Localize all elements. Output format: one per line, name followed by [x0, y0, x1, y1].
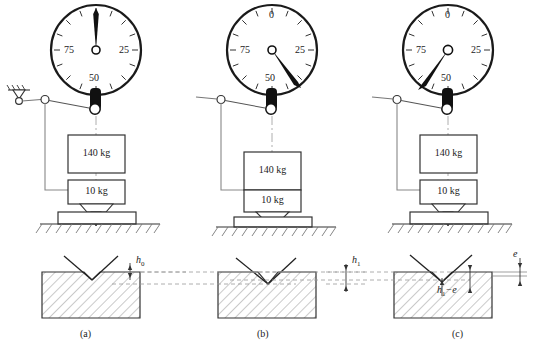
weight-140-label-a: 140 kg — [72, 147, 121, 158]
weight-140-label-c: 140 kg — [424, 147, 473, 158]
anvil-b — [234, 217, 312, 227]
panel-a — [7, 5, 186, 318]
depth-label-a: h0 — [136, 254, 145, 268]
gauge-c-label-bottom: 50 — [441, 72, 451, 83]
weight-10-label-c: 10 kg — [424, 185, 473, 196]
recovery-label-c: e — [513, 248, 517, 259]
gauge-a-label-bottom: 50 — [89, 72, 99, 83]
caption-b: (b) — [257, 328, 269, 339]
weight-140-label-b: 140 kg — [248, 164, 297, 175]
dial-gauge-c — [403, 5, 493, 110]
specimen-b — [112, 258, 366, 318]
gauge-a-label-right: 25 — [119, 44, 129, 55]
weight-10-label-a: 10 kg — [72, 185, 121, 196]
dial-gauge-a — [51, 5, 141, 110]
gauge-b-label-right: 25 — [295, 44, 305, 55]
dial-gauge-b — [227, 5, 317, 110]
residual-depth-label-c: h1−e — [437, 284, 457, 298]
gauge-b-label-top: 0 — [269, 9, 274, 20]
specimen-a — [42, 256, 186, 318]
caption-a: (a) — [80, 328, 91, 339]
caption-c: (c) — [452, 328, 463, 339]
depth-label-b: h1 — [352, 254, 361, 268]
gauge-b-label-bottom: 50 — [265, 72, 275, 83]
gauge-a-label-left: 75 — [64, 44, 74, 55]
rockwell-test-figure: 0 25 50 75 0 25 50 75 0 25 50 75 140 kg … — [0, 0, 541, 346]
anvil-a — [58, 212, 136, 224]
anvil-c — [410, 212, 488, 224]
weight-10-label-b: 10 kg — [248, 194, 297, 205]
gauge-c-label-right: 25 — [471, 44, 481, 55]
gauge-b-label-left: 75 — [240, 44, 250, 55]
lever-linkage-b — [8, 90, 276, 190]
gauge-c-label-top: 0 — [445, 9, 450, 20]
gauge-c-label-left: 75 — [416, 44, 426, 55]
